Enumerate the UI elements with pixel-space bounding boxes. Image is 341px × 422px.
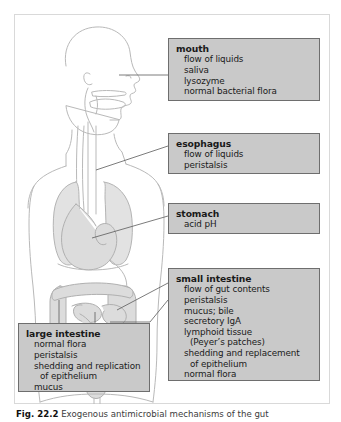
callout-line: secretory IgA [176, 316, 313, 327]
callout-header-large-intestine: large intestine [26, 328, 143, 339]
callout-box-mouth: mouth flow of liquids saliva lysozyme no… [168, 38, 320, 101]
callout-line: shedding and replacement [176, 348, 313, 359]
callout-header-small-intestine: small intestine [176, 273, 313, 284]
callout-line: peristalsis [176, 295, 313, 306]
callout-line: peristalsis [176, 160, 313, 171]
callout-header-mouth: mouth [176, 43, 313, 54]
callout-line: acid pH [176, 219, 313, 230]
figure-caption: Fig. 22.2 Exogenous antimicrobial mechan… [16, 409, 336, 419]
callout-line: of epithelium [176, 359, 313, 370]
callout-line: saliva [176, 65, 313, 76]
oral-cavity [92, 91, 126, 97]
callout-line: normal flora [26, 339, 143, 350]
callout-line: flow of gut contents [176, 284, 313, 295]
figure-caption-text: Exogenous antimicrobial mechanisms of th… [61, 409, 269, 419]
esophagus-outline [83, 126, 85, 210]
figure-caption-label: Fig. 22.2 [16, 409, 58, 419]
callout-line: mucus [26, 382, 143, 393]
callout-box-esophagus: esophagus flow of liquids peristalsis [168, 133, 320, 174]
callout-header-esophagus: esophagus [176, 138, 313, 149]
callout-line: of epithelium [26, 371, 143, 382]
callout-line: lysozyme [176, 76, 313, 87]
callout-line: normal bacterial flora [176, 86, 313, 97]
callout-header-stomach: stomach [176, 208, 313, 219]
head-profile-outline [65, 27, 139, 120]
neck-outline-front [114, 134, 126, 164]
neck-outline [66, 130, 72, 166]
callout-box-large-intestine: large intestine normal flora peristalsis… [18, 323, 150, 392]
callout-line: flow of liquids [176, 54, 313, 65]
callout-line: shedding and replication [26, 361, 143, 372]
tongue-outline [90, 99, 125, 109]
ear-icon [84, 73, 92, 85]
callout-box-small-intestine: small intestine flow of gut contents per… [168, 268, 320, 381]
callout-line: lymphoid tissue [176, 327, 313, 338]
nostril-detail [126, 76, 131, 78]
callout-box-stomach: stomach acid pH [168, 203, 320, 234]
callout-line: (Peyer’s patches) [176, 337, 313, 348]
callout-line: mucus; bile [176, 306, 313, 317]
soft-palate [96, 96, 98, 114]
callout-line: flow of liquids [176, 149, 313, 160]
figure-container: mouth flow of liquids saliva lysozyme no… [0, 0, 341, 422]
callout-line: peristalsis [26, 350, 143, 361]
callout-line: normal flora [176, 369, 313, 380]
